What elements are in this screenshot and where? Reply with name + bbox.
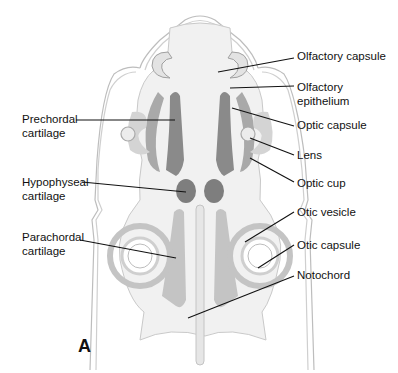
label-optic-cup: Optic cup (297, 176, 346, 190)
label-olfactory-capsule: Olfactory capsule (297, 49, 386, 63)
label-prechordal-cartilage: Prechordal cartilage (22, 112, 78, 140)
panel-letter: A (78, 336, 91, 357)
label-hypophyseal-cartilage: Hypophyseal cartilage (22, 175, 88, 203)
label-otic-vesicle: Otic vesicle (297, 205, 356, 219)
label-optic-capsule: Optic capsule (297, 118, 367, 132)
label-parachordal-cartilage: Parachordal cartilage (22, 230, 84, 258)
label-lens: Lens (297, 148, 322, 162)
label-notochord: Notochord (297, 268, 350, 282)
notochord (196, 205, 204, 365)
label-otic-capsule: Otic capsule (297, 238, 360, 252)
label-olfactory-epithelium: Olfactory epithelium (297, 80, 349, 108)
